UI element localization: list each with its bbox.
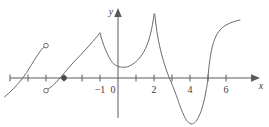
curve-branch-far-right <box>208 20 240 78</box>
curve-branch-valley <box>155 14 208 124</box>
x-tick-label-4: 4 <box>188 84 193 95</box>
y-axis-arrow-icon <box>114 8 122 17</box>
open-circle-lower-left <box>44 88 49 93</box>
curve-branch-middle <box>46 33 100 91</box>
x-axis-label: x <box>258 80 264 91</box>
plot-canvas: −1 0 2 4 6 y x <box>0 0 269 127</box>
x-tick-label-2: 2 <box>152 84 157 95</box>
x-tick-label-minus1: −1 <box>95 84 106 95</box>
curve-branch-to-asymptote <box>100 14 154 67</box>
y-axis-label: y <box>108 6 114 17</box>
function-graph-figure: −1 0 2 4 6 y x <box>0 0 269 127</box>
origin-label: 0 <box>111 84 116 95</box>
open-circle-upper-left <box>44 43 49 48</box>
curve-branch-left <box>5 46 46 97</box>
x-tick-label-6: 6 <box>224 84 229 95</box>
closed-dot-on-axis <box>62 76 67 81</box>
